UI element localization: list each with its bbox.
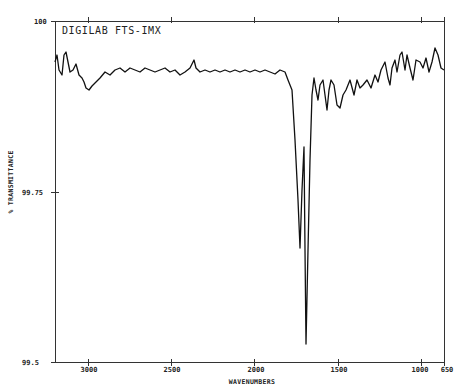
x-tick-label-2500: 2500 <box>164 366 181 374</box>
spectrum-trace <box>55 48 444 344</box>
x-tick-label-3000: 3000 <box>81 366 98 374</box>
y-axis-title: % TRANSMITTANCE <box>7 150 15 213</box>
x-tick-label-2000: 2000 <box>248 366 265 374</box>
instrument-label: DIGILAB FTS-IMX <box>62 25 161 36</box>
x-tick-labels: 3000 2500 2000 1500 1000 650 <box>81 366 454 374</box>
axis-ticks <box>51 17 445 366</box>
x-axis-title: WAVENUMBERS <box>229 378 275 386</box>
y-tick-label-100: 100 <box>34 18 47 26</box>
y-tick-labels: 100 99.75 99.5 <box>22 18 47 367</box>
x-tick-label-1000: 1000 <box>412 366 429 374</box>
x-tick-label-1500: 1500 <box>331 366 348 374</box>
y-tick-label-99-75: 99.75 <box>22 189 43 197</box>
x-tick-label-650: 650 <box>441 366 454 374</box>
y-tick-label-99-5: 99.5 <box>22 359 39 367</box>
ir-spectrum-chart: 100 99.75 99.5 3000 2500 2000 1500 1000 … <box>0 0 464 392</box>
